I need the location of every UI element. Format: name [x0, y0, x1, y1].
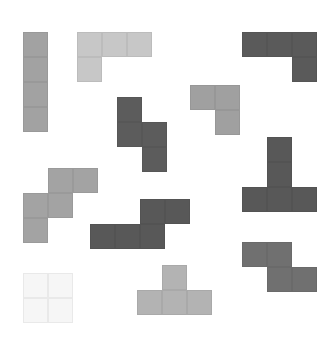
piece-cell — [242, 242, 267, 267]
piece-cell — [292, 187, 317, 212]
piece-cell — [292, 32, 317, 57]
piece-cell — [23, 218, 48, 243]
piece-cell — [165, 199, 190, 224]
piece-cell — [23, 57, 48, 82]
piece-cell — [267, 267, 292, 292]
piece-cell — [267, 242, 292, 267]
piece-cell — [242, 187, 267, 212]
piece-cell — [48, 168, 73, 193]
piece-cell — [162, 265, 187, 290]
piece-cell — [242, 32, 267, 57]
piece-cell — [292, 57, 317, 82]
piece-cell — [215, 85, 240, 110]
piece-cell — [48, 193, 73, 218]
piece-cell — [90, 224, 115, 249]
piece-cell — [73, 168, 98, 193]
piece-cell — [140, 199, 165, 224]
piece-cell — [140, 224, 165, 249]
game-board — [0, 0, 331, 338]
piece-cell — [115, 224, 140, 249]
piece-cell — [77, 57, 102, 82]
piece-cell — [77, 32, 102, 57]
piece-cell — [267, 187, 292, 212]
piece-cell — [117, 97, 142, 122]
piece-cell — [23, 82, 48, 107]
piece-cell — [23, 107, 48, 132]
piece-cell — [142, 122, 167, 147]
piece-cell — [117, 122, 142, 147]
piece-cell — [162, 290, 187, 315]
piece-cell — [142, 147, 167, 172]
piece-cell — [267, 137, 292, 162]
piece-cell — [267, 32, 292, 57]
piece-cell — [48, 273, 73, 298]
piece-cell — [267, 162, 292, 187]
piece-cell — [23, 298, 48, 323]
piece-cell — [23, 193, 48, 218]
piece-cell — [23, 32, 48, 57]
piece-cell — [23, 273, 48, 298]
piece-cell — [215, 110, 240, 135]
piece-cell — [187, 290, 212, 315]
piece-cell — [127, 32, 152, 57]
piece-cell — [137, 290, 162, 315]
piece-cell — [292, 267, 317, 292]
piece-cell — [190, 85, 215, 110]
piece-cell — [102, 32, 127, 57]
piece-cell — [48, 298, 73, 323]
